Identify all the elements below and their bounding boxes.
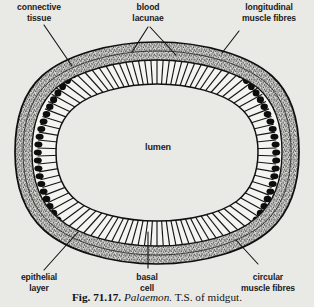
label-circular-muscle-fibres: circular muscle fibres [222, 272, 314, 293]
lumen-region [56, 84, 258, 221]
label-longitudinal-muscle-fibres: longitudinal muscle fibres [224, 2, 314, 23]
label-epithelial-layer: epithelial layer [0, 272, 78, 293]
caption-description: T.S. of midgut. [175, 291, 242, 303]
label-connective-tissue: connective tissue [2, 2, 76, 23]
figure-page: connective tissue blood lacunae longitud… [0, 0, 314, 307]
figure-caption: Fig. 71.17. Palaemon. T.S. of midgut. [0, 291, 314, 303]
label-basal-cell: basal cell [112, 272, 182, 293]
label-blood-lacunae: blood lacunae [112, 2, 184, 23]
caption-genus-name: Palaemon. [124, 291, 172, 303]
caption-figure-number: Fig. 71.17. [72, 291, 121, 303]
label-lumen: lumen [128, 142, 188, 153]
midgut-cross-section-diagram [0, 0, 314, 307]
